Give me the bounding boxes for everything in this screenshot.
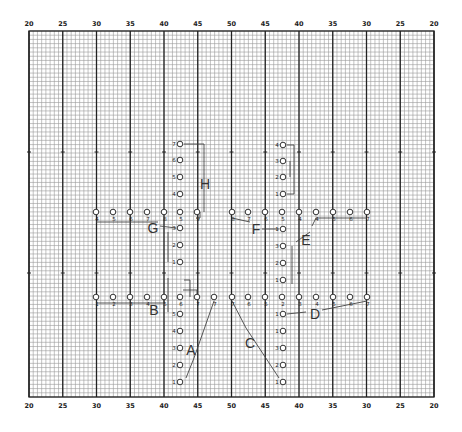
yard-labels-top: 20253035404550454035302520: [24, 20, 439, 28]
performer-number: 6: [349, 216, 353, 222]
performer-number: 6: [179, 301, 183, 307]
yard-label: 30: [362, 402, 372, 410]
yard-label: 20: [24, 402, 34, 410]
performer-marker: [280, 260, 286, 266]
performer-marker: [280, 142, 286, 148]
group-label-f: F: [252, 221, 261, 237]
performer-marker: [177, 362, 183, 368]
performer-number: 1: [275, 328, 279, 334]
performer-number: 6: [264, 216, 268, 222]
performer-number: 1: [95, 301, 99, 307]
performer-number: 6: [349, 301, 353, 307]
performer-number: 5: [281, 216, 285, 222]
performer-marker: [280, 328, 286, 334]
performer-number: 8: [231, 216, 235, 222]
yard-label: 35: [126, 402, 136, 410]
performer-marker: [280, 277, 286, 283]
performer-number: 9: [196, 216, 200, 222]
performer-number: 7: [366, 216, 370, 222]
performer-number: 1: [275, 191, 279, 197]
performer-marker: [279, 294, 285, 300]
performer-number: 5: [172, 311, 176, 317]
group-label-g: G: [148, 220, 159, 236]
performer-number: 4: [172, 191, 176, 197]
performer-marker: [177, 141, 183, 147]
yard-label: 40: [294, 402, 304, 410]
performer-number: 3: [172, 345, 176, 351]
performer-number: 5: [179, 216, 183, 222]
performer-number: 1: [275, 277, 279, 283]
performer-number: 7: [196, 301, 200, 307]
performer-marker: [93, 294, 99, 300]
performer-marker: [229, 209, 235, 215]
performer-marker: [177, 259, 183, 265]
yard-label: 30: [92, 402, 102, 410]
performer-marker: [330, 209, 336, 215]
performer-number: 2: [172, 242, 176, 248]
performer-marker: [280, 243, 286, 249]
performer-number: 5: [112, 216, 116, 222]
performer-marker: [194, 209, 200, 215]
performer-number: 7: [231, 301, 235, 307]
performer-number: 7: [366, 301, 370, 307]
yard-labels-bottom: 20253035404550454035302520: [24, 402, 439, 410]
performer-number: 6: [129, 216, 133, 222]
performer-marker: [177, 157, 183, 163]
yard-label: 20: [24, 20, 34, 28]
performer-marker: [177, 311, 183, 317]
yard-label: 35: [328, 402, 338, 410]
yard-label: 50: [227, 20, 237, 28]
performer-number: 5: [163, 301, 167, 307]
performer-marker: [110, 294, 116, 300]
drill-chart: 20253035404550454035302520 2025303540455…: [0, 0, 462, 432]
performer-number: 4: [172, 328, 176, 334]
performer-number: 2: [112, 301, 116, 307]
performer-marker: [177, 191, 183, 197]
performer-number: 3: [129, 301, 133, 307]
performer-number: 2: [275, 362, 279, 368]
performer-marker: [194, 294, 200, 300]
performer-number: 1: [275, 226, 279, 232]
yard-label: 40: [294, 20, 304, 28]
performer-number: 8: [163, 216, 167, 222]
performer-marker: [296, 209, 302, 215]
performer-number: 4: [298, 216, 302, 222]
performer-marker: [110, 209, 116, 215]
group-label-e: E: [301, 232, 310, 248]
performer-number: 5: [172, 174, 176, 180]
performer-number: 2: [172, 362, 176, 368]
performer-marker: [177, 225, 183, 231]
group-label-h: H: [200, 176, 210, 192]
performer-marker: [245, 294, 251, 300]
performer-number: 1: [275, 311, 279, 317]
performer-marker: [280, 345, 286, 351]
performer-number: 1: [172, 259, 176, 265]
yard-label: 25: [58, 20, 68, 28]
group-label-c: C: [245, 335, 255, 351]
performer-number: 6: [247, 301, 251, 307]
performer-marker: [177, 209, 183, 215]
performer-number: 2: [275, 260, 279, 266]
performer-number: 2: [275, 174, 279, 180]
performer-marker: [93, 209, 99, 215]
performer-number: 4: [275, 142, 279, 148]
group-label-a: A: [186, 342, 196, 358]
performer-marker: [211, 294, 217, 300]
performer-number: 3: [275, 158, 279, 164]
yard-label: 45: [193, 20, 203, 28]
yard-label: 20: [429, 402, 439, 410]
performer-number: 5: [264, 301, 268, 307]
performer-marker: [177, 379, 183, 385]
performer-marker: [347, 209, 353, 215]
performer-number: 7: [213, 301, 217, 307]
performer-number: 7: [247, 216, 251, 222]
performer-marker: [177, 294, 183, 300]
performer-marker: [280, 226, 286, 232]
performer-number: 3: [172, 225, 176, 231]
yard-label: 40: [159, 402, 169, 410]
performer-number: 3: [275, 243, 279, 249]
yard-label: 40: [159, 20, 169, 28]
yard-label: 20: [429, 20, 439, 28]
performer-marker: [161, 294, 167, 300]
performer-marker: [144, 209, 150, 215]
